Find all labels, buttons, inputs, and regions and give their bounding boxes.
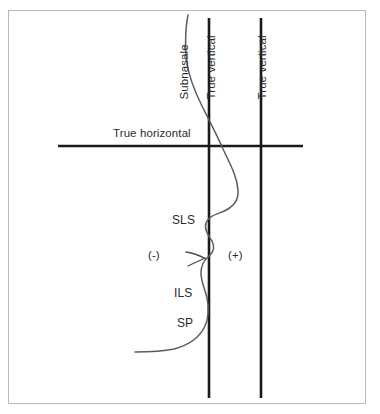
label-sls-superior-labial-sulcus: SLS <box>172 214 195 226</box>
diagram-canvas <box>0 0 380 414</box>
label-true-vertical-1: True vertical <box>206 35 218 99</box>
label-sp-soft-pogonion: SP <box>177 317 193 329</box>
label-true-horizontal: True horizontal <box>113 128 191 140</box>
label-true-vertical-2: True vertical <box>257 35 269 99</box>
figure-root: True horizontal Subnasale True vertical … <box>0 0 380 414</box>
label-subnasale: Subnasale <box>179 44 191 99</box>
commissure-upper-stroke <box>186 252 206 259</box>
label-ils-inferior-labial-sulcus: ILS <box>174 287 192 299</box>
label-positive-sign: (+) <box>228 250 243 262</box>
label-negative-sign: (-) <box>148 250 160 262</box>
